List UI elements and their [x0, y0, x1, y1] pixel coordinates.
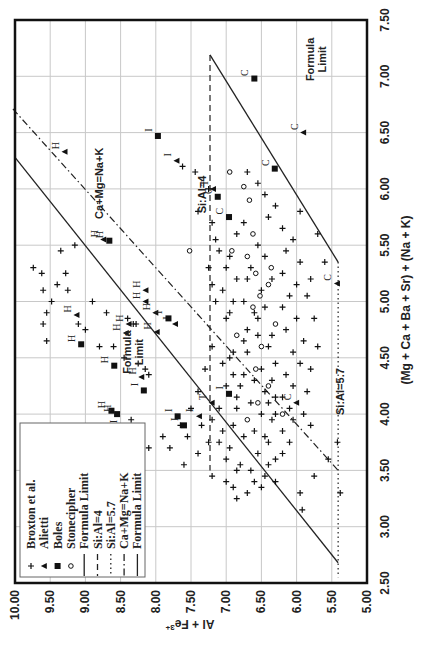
- plus-marker: [301, 338, 307, 344]
- plus-marker: [111, 344, 117, 350]
- plus-marker: [241, 372, 247, 378]
- plus-marker: [272, 411, 278, 417]
- plus-marker: [265, 462, 271, 468]
- circle-marker: [256, 401, 261, 406]
- plus-marker: [128, 417, 134, 423]
- plus-marker: [262, 192, 268, 198]
- annotation-label: FormulaLimit: [121, 330, 145, 374]
- plus-marker: [220, 360, 226, 366]
- point-label: C: [239, 69, 250, 76]
- plus-marker: [146, 445, 152, 451]
- annotation-label: Ca+Mg=Na+K: [93, 148, 105, 219]
- plus-marker: [265, 214, 271, 220]
- plus-marker: [40, 321, 46, 327]
- circle-marker: [230, 249, 235, 254]
- plus-marker: [290, 349, 296, 355]
- svg-text:(Mg + Ca + Ba + Sr) + (Na + K): (Mg + Ca + Ba + Sr) + (Na + K): [399, 215, 413, 384]
- point-label: C: [260, 159, 271, 166]
- legend-label: Ca+Mg=Na+K: [117, 472, 131, 549]
- x-tick-label: 3.50: [378, 458, 392, 482]
- plus-marker: [40, 287, 46, 293]
- legend-label: Broxton et al.: [24, 480, 38, 549]
- plus-marker: [280, 270, 286, 276]
- plus-marker: [82, 327, 88, 333]
- plus-marker: [241, 338, 247, 344]
- point-label: I: [163, 409, 174, 412]
- x-tick-label: 6.00: [378, 177, 392, 201]
- plus-marker: [272, 394, 278, 400]
- plus-marker: [294, 282, 300, 288]
- y-axis-ticks: 10.009.509.008.508.007.507.006.506.005.5…: [8, 590, 374, 620]
- plus-marker: [125, 315, 131, 321]
- plus-marker: [248, 400, 254, 406]
- legend-label: Alietti: [37, 516, 51, 549]
- plus-marker: [181, 462, 187, 468]
- plus-marker: [287, 405, 293, 411]
- plus-marker: [58, 248, 64, 254]
- circle-marker: [234, 333, 239, 338]
- point-label: H: [99, 356, 110, 363]
- plus-marker: [227, 355, 233, 361]
- circle-marker: [266, 384, 271, 389]
- circle-marker: [227, 170, 232, 175]
- plus-marker: [251, 377, 257, 383]
- plus-marker: [234, 276, 240, 282]
- y-tick-label: 6.50: [254, 590, 268, 614]
- square-marker: [106, 238, 112, 244]
- plus-marker: [216, 439, 222, 445]
- square-marker: [226, 391, 232, 397]
- triangle-marker: [73, 312, 79, 318]
- plus-marker: [63, 270, 69, 276]
- plus-marker: [272, 360, 278, 366]
- plus-marker: [258, 366, 264, 372]
- plus-marker: [272, 456, 278, 462]
- plus-marker: [248, 467, 254, 473]
- x-tick-label: 7.50: [378, 8, 392, 32]
- circle-marker: [242, 184, 247, 189]
- plus-marker: [265, 344, 271, 350]
- series-boles: CIHHIHIHIIHCCCII: [66, 69, 278, 431]
- plus-marker: [227, 310, 233, 316]
- plus-marker: [301, 411, 307, 417]
- triangle-marker: [300, 130, 306, 136]
- triangle-marker: [172, 321, 178, 327]
- plus-marker: [262, 389, 268, 395]
- square-marker: [226, 214, 232, 220]
- y-tick-label: 5.00: [360, 590, 374, 614]
- plus-marker: [304, 389, 310, 395]
- point-label: H: [141, 303, 152, 310]
- plus-marker: [272, 479, 278, 485]
- plus-marker: [30, 265, 36, 271]
- point-label: H: [94, 231, 105, 238]
- plus-marker: [65, 287, 71, 293]
- triangle-marker: [173, 158, 179, 164]
- plus-marker: [262, 253, 268, 259]
- x-tick-label: 2.50: [378, 571, 392, 595]
- x-tick-label: 6.50: [378, 121, 392, 145]
- y-tick-label: 10.00: [8, 590, 22, 620]
- plus-marker: [251, 479, 257, 485]
- plus-marker: [237, 383, 243, 389]
- plus-marker: [255, 242, 261, 248]
- square-marker: [165, 315, 171, 321]
- square-marker: [111, 363, 117, 369]
- plus-marker: [49, 299, 55, 305]
- plus-marker: [304, 293, 310, 299]
- y-tick-label: 7.00: [219, 590, 233, 614]
- y-tick-label: 8.00: [149, 590, 163, 614]
- plus-marker: [258, 287, 264, 293]
- point-label: H: [114, 314, 125, 321]
- point-label: H: [62, 305, 73, 312]
- legend-label: Formula Limit: [130, 473, 144, 549]
- triangle-marker: [142, 287, 148, 293]
- square-marker: [155, 133, 161, 139]
- y-tick-label: 8.50: [114, 590, 128, 614]
- svg-text:Al + Fe3+: Al + Fe3+: [165, 617, 214, 632]
- plus-marker: [213, 237, 219, 243]
- point-label: I: [153, 311, 164, 314]
- plus-marker: [311, 473, 317, 479]
- plus-marker: [167, 445, 173, 451]
- y-tick-label: 6.00: [290, 590, 304, 614]
- point-label: I: [169, 418, 180, 421]
- plus-marker: [223, 456, 229, 462]
